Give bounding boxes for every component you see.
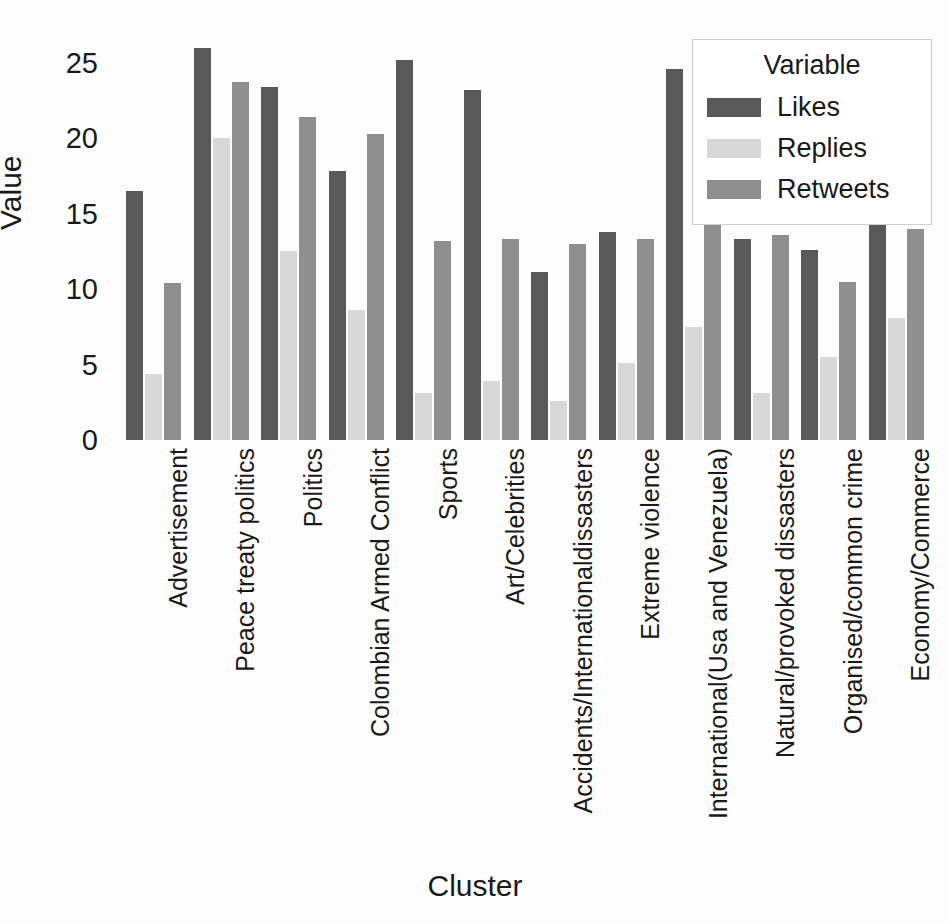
- bar-group: [329, 40, 384, 440]
- bar-retweets: [839, 282, 856, 440]
- bar-retweets: [164, 283, 181, 440]
- bar-retweets: [367, 134, 384, 440]
- bar-group: [261, 40, 316, 440]
- bar-replies: [213, 138, 230, 440]
- bar-likes: [396, 60, 413, 440]
- bar-replies: [415, 393, 432, 440]
- y-axis-tick-label: 5: [82, 348, 98, 381]
- bar-likes: [261, 87, 278, 440]
- bar-likes: [531, 272, 548, 440]
- y-axis-tick-label: 10: [66, 273, 98, 306]
- x-axis-tick-label: Economy/Commerce: [906, 448, 935, 681]
- x-axis-tick-label: Organised/common crime: [839, 448, 868, 734]
- x-axis-tick-label: Colombian Armed Conflict: [366, 448, 395, 737]
- y-axis-tick-label: 25: [66, 46, 98, 79]
- chart-page: 0510152025 Value AdvertisementPeace trea…: [0, 0, 950, 923]
- bar-likes: [599, 232, 616, 440]
- x-axis-tick-label: International(Usa and Venezuela): [704, 448, 733, 819]
- x-axis-tick-label: Natural/provoked dissasters: [771, 448, 800, 758]
- x-axis-tick-label: Advertisement: [164, 448, 193, 608]
- bar-replies: [685, 327, 702, 440]
- bar-retweets: [434, 241, 451, 440]
- bar-likes: [194, 48, 211, 440]
- legend-item-label: Likes: [777, 92, 840, 123]
- legend-item-retweets[interactable]: Retweets: [707, 169, 917, 210]
- bar-retweets: [704, 206, 721, 440]
- y-axis-tick-label: 20: [66, 122, 98, 155]
- bar-retweets: [907, 229, 924, 440]
- legend-swatch-icon: [707, 98, 761, 117]
- bar-retweets: [299, 117, 316, 440]
- bar-retweets: [569, 244, 586, 440]
- y-axis-tick-label: 0: [82, 424, 98, 457]
- bar-likes: [126, 191, 143, 440]
- bar-replies: [348, 310, 365, 440]
- legend-swatch-icon: [707, 180, 761, 199]
- legend-rows: LikesRepliesRetweets: [707, 87, 917, 210]
- y-axis-title: Value: [0, 155, 28, 230]
- legend: Variable LikesRepliesRetweets: [692, 39, 932, 225]
- bar-group: [126, 40, 181, 440]
- bar-replies: [550, 401, 567, 440]
- bar-likes: [464, 90, 481, 440]
- x-axis-tick-label: Accidents/Internationaldissasters: [569, 448, 598, 813]
- y-axis-tick-label: 15: [66, 197, 98, 230]
- x-axis-tick-label: Politics: [299, 448, 328, 527]
- x-axis: AdvertisementPeace treaty politicsPoliti…: [118, 448, 928, 858]
- x-axis-tick-label: Peace treaty politics: [231, 448, 260, 672]
- x-axis-tick-label: Sports: [434, 448, 463, 520]
- legend-item-replies[interactable]: Replies: [707, 128, 917, 169]
- bar-replies: [483, 381, 500, 440]
- x-axis-title: Cluster: [0, 869, 950, 903]
- legend-title: Variable: [707, 50, 917, 81]
- y-axis: 0510152025: [0, 40, 112, 440]
- bar-retweets: [232, 82, 249, 440]
- bar-group: [531, 40, 586, 440]
- bar-replies: [145, 374, 162, 440]
- legend-item-label: Retweets: [777, 174, 890, 205]
- bar-group: [599, 40, 654, 440]
- bar-replies: [618, 363, 635, 440]
- bar-retweets: [637, 239, 654, 440]
- bar-likes: [869, 215, 886, 440]
- bar-replies: [820, 357, 837, 440]
- bar-retweets: [772, 235, 789, 440]
- bar-retweets: [502, 239, 519, 440]
- bar-likes: [801, 250, 818, 440]
- bar-group: [464, 40, 519, 440]
- bar-likes: [734, 239, 751, 440]
- x-axis-tick-label: Extreme violence: [636, 448, 665, 640]
- bar-replies: [888, 318, 905, 440]
- bar-likes: [329, 171, 346, 440]
- bar-group: [396, 40, 451, 440]
- bar-likes: [666, 69, 683, 440]
- legend-swatch-icon: [707, 139, 761, 158]
- bar-group: [194, 40, 249, 440]
- legend-item-likes[interactable]: Likes: [707, 87, 917, 128]
- legend-item-label: Replies: [777, 133, 867, 164]
- bar-replies: [280, 251, 297, 440]
- bar-replies: [753, 393, 770, 440]
- x-axis-tick-label: Art/Celebrities: [501, 448, 530, 605]
